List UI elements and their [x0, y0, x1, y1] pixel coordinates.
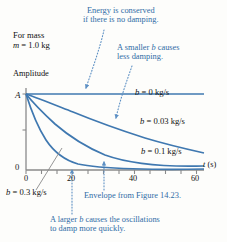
x-tick-60: 60 [191, 174, 199, 183]
y-axis-title: Amplitude [13, 69, 49, 78]
x-tick-40: 40 [129, 174, 137, 183]
curve-label-b-0-03: b = 0.03 kg/s [140, 117, 185, 127]
annotation-energy-line1: Energy is conserved [87, 6, 155, 15]
annotation-energy-conserved: Energy is conserved if there is no dampi… [83, 6, 159, 25]
curve-label-b-0: b = 0 kg/s [135, 88, 169, 98]
annotation-smaller-b-post: causes [156, 43, 180, 52]
condition-line1: For mass [13, 30, 44, 40]
annotation-smaller-b-pre: A smaller [117, 43, 151, 52]
condition-for-mass: For mass m = 1.0 kg [13, 31, 50, 50]
curve-label-b-0-03-rest: = 0.03 kg/s [144, 116, 185, 126]
annotation-smaller-b-line2: less damping. [117, 52, 163, 61]
annotation-larger-b-pre: A larger [50, 215, 79, 224]
y-axis-label-A: A [15, 90, 21, 100]
annotation-larger-b-post: causes the oscillations [83, 215, 160, 224]
damped-oscillation-figure: Energy is conserved if there is no dampi… [0, 0, 227, 242]
leader-energy-conserved [86, 30, 104, 88]
axes [23, 88, 205, 174]
condition-mass-value: = 1.0 kg [19, 40, 50, 50]
x-tick-0: 0 [24, 174, 28, 183]
x-axis-title: t (s) [203, 160, 216, 169]
annotation-smaller-b: A smaller b causes less damping. [117, 43, 180, 62]
leader-b-0-3-pointer [36, 148, 62, 190]
x-tick-20: 20 [67, 174, 75, 183]
leader-smaller-b [116, 66, 132, 118]
annotation-energy-line2: if there is no damping. [83, 15, 159, 24]
x-axis-title-unit: (s) [207, 160, 216, 169]
annotation-larger-b: A larger b causes the oscillations to da… [50, 215, 160, 234]
curve-label-b-0-1-rest: = 0.1 kg/s [145, 146, 181, 156]
curve-label-b-0-3: b = 0.3 kg/s [6, 188, 47, 198]
annotation-larger-b-line2: to damp more quickly. [50, 224, 125, 233]
annotation-envelope: Envelope from Figure 14.23. [84, 191, 181, 200]
curve-label-b-0-rest: = 0 kg/s [139, 87, 169, 97]
x-axis-title-var: t [203, 160, 205, 169]
curve-label-b-0-1: b = 0.1 kg/s [141, 147, 182, 157]
curve-label-b-0-3-rest: = 0.3 kg/s [10, 187, 46, 197]
y-axis-label-zero: 0 [15, 163, 19, 173]
